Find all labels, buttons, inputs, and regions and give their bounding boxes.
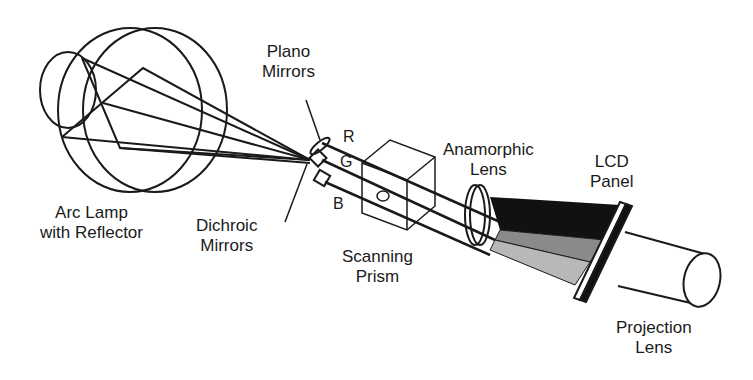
label-projection-lens: Projection Lens xyxy=(616,318,692,358)
plano-mirrors xyxy=(306,100,332,157)
label-dichroic-mirrors: Dichroic Mirrors xyxy=(196,216,257,256)
label-lcd-panel: LCD Panel xyxy=(590,152,633,192)
label-scanning-prism: Scanning Prism xyxy=(342,247,413,287)
label-plano-mirrors: Plano Mirrors xyxy=(262,42,315,82)
label-anamorphic-lens: Anamorphic Lens xyxy=(443,140,534,180)
beam-label-b: B xyxy=(333,195,344,213)
label-arc-lamp: Arc Lamp with Reflector xyxy=(40,203,143,243)
projection-lens xyxy=(618,232,725,310)
scanning-prism xyxy=(362,140,435,230)
beam-label-r: R xyxy=(343,128,355,146)
beam-label-g: G xyxy=(340,153,352,171)
